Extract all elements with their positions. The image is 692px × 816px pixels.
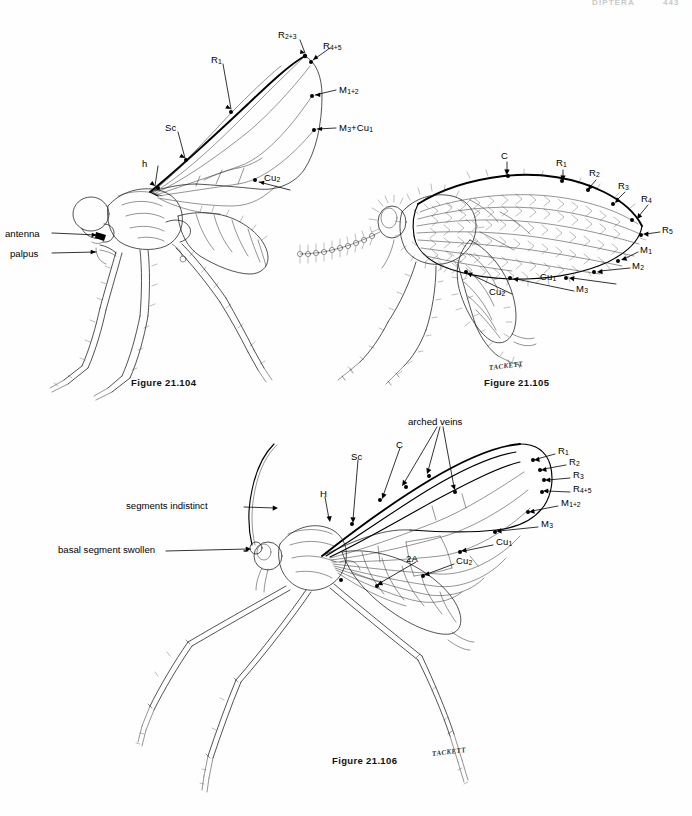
label-cu1-105: Cu1 (540, 272, 556, 283)
label-m3-105: M3 (576, 284, 588, 295)
label-c-105: C (501, 151, 508, 161)
label-palpus: palpus (10, 248, 38, 259)
label-m1-105: M1 (640, 245, 652, 256)
label-r2-105: R2 (589, 168, 600, 179)
label-sc-106: Sc (351, 452, 363, 462)
label-m2-105: M2 (632, 261, 644, 272)
label-cu1-106: Cu1 (496, 537, 512, 548)
label-r1-105: R1 (556, 158, 567, 169)
label-m3-106: M3 (541, 519, 553, 530)
figure-caption-21-106: Figure 21.106 (332, 755, 397, 766)
label-r4plus5-106: R4+5 (573, 484, 592, 495)
label-2a-106: 2A (406, 554, 418, 564)
label-cu2-105: Cu2 (489, 287, 505, 298)
figure-caption-21-104: Figure 21.104 (131, 377, 196, 388)
fig106-leaders (166, 427, 570, 585)
label-r2-106: R2 (569, 457, 580, 468)
label-cu2-106: Cu2 (456, 556, 472, 567)
artist-signature-105: TACKETT (489, 360, 524, 372)
fig104-body (50, 189, 272, 400)
label-m1plus2: M1+2 (339, 85, 359, 96)
fig105-wing (413, 169, 646, 286)
label-arched-veins: arched veins (408, 416, 462, 427)
label-r1: R1 (211, 55, 222, 66)
running-head-title: DIPTERA (592, 0, 635, 7)
fig104-leaders (52, 40, 336, 254)
label-segments-indistinct: segments indistinct (126, 500, 208, 511)
fig106-body (136, 444, 474, 792)
label-r4-105: R4 (641, 194, 652, 205)
label-antenna: antenna (5, 228, 40, 239)
label-h: h (142, 159, 147, 169)
fig105-leaders (467, 162, 660, 294)
artist-signature-106: TACKETT (432, 746, 467, 758)
label-m1plus2-106: M1+2 (561, 498, 581, 509)
label-m3-plus-cu1: M3+Cu1 (339, 123, 373, 134)
fig104-wing (150, 54, 322, 214)
figure-caption-21-105: Figure 21.105 (484, 377, 549, 388)
label-r1-106: R1 (558, 446, 569, 457)
label-r3-105: R3 (618, 181, 629, 192)
label-cu2: Cu2 (264, 173, 280, 184)
label-r5-105: R5 (662, 225, 673, 236)
label-c-106: C (396, 440, 403, 450)
fig106-wing (322, 444, 552, 606)
textbook-page: DIPTERA 443 (0, 0, 692, 816)
label-r2plus3: R2+3 (278, 30, 297, 41)
label-basal-segment-swollen: basal segment swollen (58, 544, 155, 555)
fig105-body (297, 184, 536, 385)
label-r3-106: R3 (573, 470, 584, 481)
page-number: 443 (663, 0, 680, 7)
label-r4plus5: R4+5 (323, 41, 342, 52)
label-sc: Sc (165, 123, 177, 133)
label-h-106: H (320, 489, 327, 499)
